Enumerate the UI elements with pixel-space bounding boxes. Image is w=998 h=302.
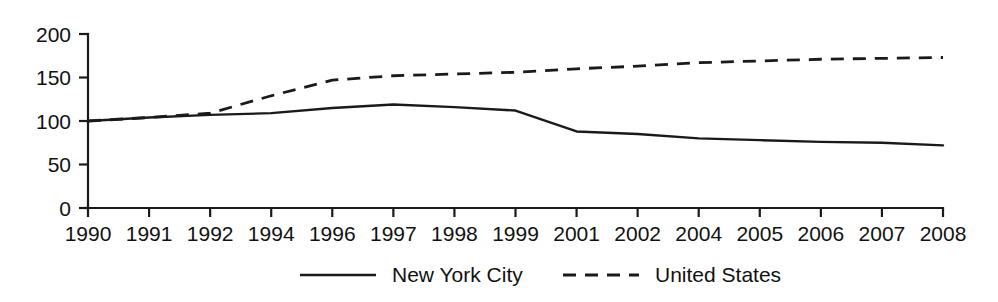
y-tick-label: 150 [36,66,71,89]
x-tick-label: 2006 [797,222,844,245]
legend-label: United States [655,263,781,286]
x-tick-label: 1996 [309,222,356,245]
line-chart: 050100150200 199019911992199419961997199… [0,0,998,302]
x-tick-label: 1999 [492,222,539,245]
x-tick-label: 1997 [370,222,417,245]
data-series-group [88,57,943,145]
y-axis: 050100150200 [36,23,88,220]
chart-canvas: 050100150200 199019911992199419961997199… [0,0,998,302]
y-tick-label: 200 [36,23,71,46]
x-tick-label: 1990 [65,222,112,245]
x-tick-label: 2007 [859,222,906,245]
x-tick-label: 2002 [614,222,661,245]
x-tick-label: 1992 [187,222,234,245]
x-tick-label: 1994 [248,222,295,245]
x-tick-label: 2004 [675,222,722,245]
chart-legend: New York CityUnited States [300,263,781,286]
x-tick-label: 1998 [431,222,478,245]
x-tick-label: 1991 [126,222,173,245]
series-line-new-york-city [88,104,943,145]
y-tick-label: 0 [59,197,71,220]
y-tick-label: 100 [36,110,71,133]
y-tick-label: 50 [48,153,71,176]
x-tick-label: 2001 [553,222,600,245]
legend-label: New York City [392,263,523,286]
x-tick-label: 2005 [736,222,783,245]
x-tick-label: 2008 [920,222,967,245]
x-axis: 1990199119921994199619971998199920012002… [65,208,967,245]
